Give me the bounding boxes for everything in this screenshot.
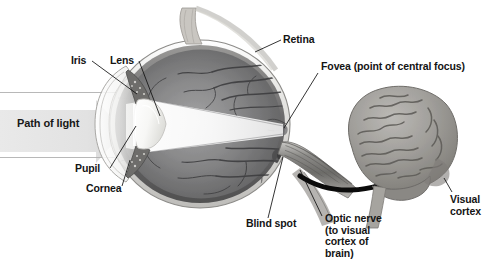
label-lens: Lens bbox=[110, 55, 134, 67]
label-retina: Retina bbox=[283, 34, 315, 46]
eye-anatomy-figure: Iris Lens Retina Fovea (point of central… bbox=[0, 0, 495, 266]
leader-visual-cortex bbox=[444, 178, 452, 192]
label-optic-nerve: Optic nerve (to visual cortex of brain) bbox=[325, 213, 382, 259]
pupil bbox=[133, 104, 136, 146]
label-visual-cortex: Visual cortex bbox=[450, 194, 481, 217]
brain bbox=[348, 86, 457, 228]
label-pupil: Pupil bbox=[75, 163, 100, 175]
label-iris: Iris bbox=[71, 55, 86, 67]
label-blind-spot: Blind spot bbox=[246, 218, 296, 230]
leader-fovea bbox=[284, 73, 318, 128]
extraocular-muscle-superior bbox=[180, 8, 202, 44]
label-path-of-light: Path of light bbox=[17, 118, 79, 130]
label-cornea: Cornea bbox=[86, 183, 122, 195]
label-fovea: Fovea (point of central focus) bbox=[321, 61, 465, 73]
